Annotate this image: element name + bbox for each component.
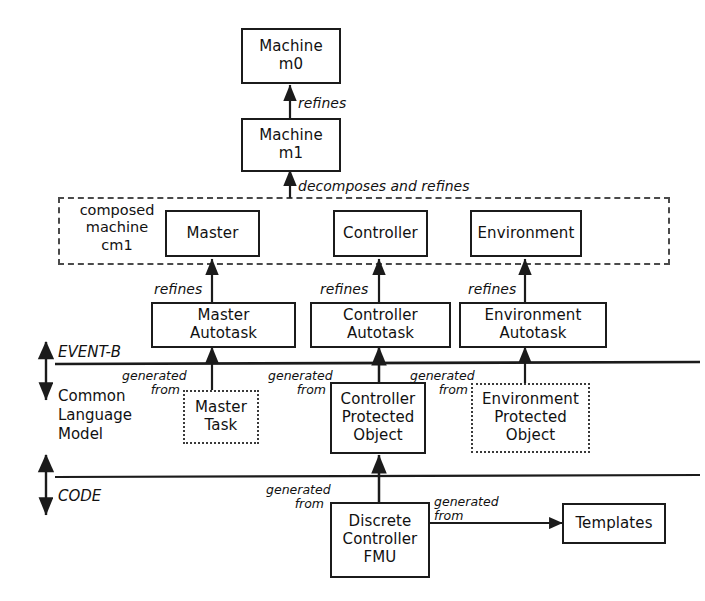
node-controller-autotask[interactable]: Controller Autotask bbox=[310, 302, 451, 348]
node-environment-autotask[interactable]: Environment Autotask bbox=[459, 302, 607, 348]
node-machine-m0[interactable]: Machine m0 bbox=[241, 28, 341, 84]
edge-label-decomposes-and-refines: decomposes and refines bbox=[298, 178, 470, 194]
diagram-canvas: composed machine cm1 Machine m0 Machine … bbox=[0, 0, 705, 601]
edge-label-refines-controller: refines bbox=[320, 281, 368, 297]
edge-label-refines-m0: refines bbox=[298, 95, 346, 111]
node-master-task[interactable]: Master Task bbox=[183, 390, 259, 444]
node-controller[interactable]: Controller bbox=[333, 210, 428, 257]
layer-label-code: CODE bbox=[58, 487, 101, 506]
node-discrete-controller-fmu[interactable]: Discrete Controller FMU bbox=[330, 502, 430, 578]
edge-label-refines-master: refines bbox=[154, 281, 202, 297]
layer-label-event-b: EVENT-B bbox=[58, 343, 121, 362]
edge-label-templates-generated-from: generated from bbox=[434, 495, 506, 524]
node-environment-protected-object[interactable]: Environment Protected Object bbox=[471, 383, 590, 453]
node-master[interactable]: Master bbox=[165, 210, 260, 257]
edge-label-fmu-generated-from: generated from bbox=[266, 483, 324, 512]
layer-label-common-language-model: Common Language Model bbox=[58, 387, 132, 443]
separator-clm-code bbox=[55, 475, 700, 477]
composed-machine-label: composed machine cm1 bbox=[62, 202, 172, 254]
node-environment[interactable]: Environment bbox=[470, 210, 582, 257]
separator-event-b-clm bbox=[55, 362, 700, 364]
edge-label-refines-environment: refines bbox=[468, 281, 516, 297]
node-templates[interactable]: Templates bbox=[562, 503, 666, 544]
edge-label-environment-object-generated-from: generated from bbox=[410, 369, 468, 398]
node-machine-m1[interactable]: Machine m1 bbox=[241, 118, 341, 172]
edge-label-controller-object-generated-from: generated from bbox=[268, 369, 326, 398]
node-master-autotask[interactable]: Master Autotask bbox=[151, 302, 296, 348]
